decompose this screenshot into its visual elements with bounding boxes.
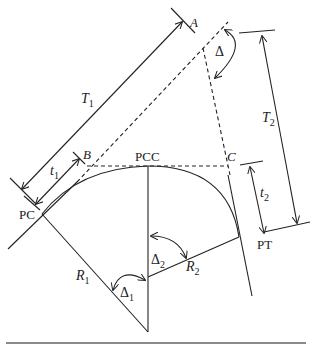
label-t1: t1: [50, 163, 59, 181]
label-pt: PT: [257, 237, 272, 252]
compound-curve-diagram: A B PCC C PC PT T1 t1 T2 t2 R1 R2 Δ Δ1 Δ…: [0, 0, 312, 349]
label-t2: t2: [260, 185, 269, 203]
label-R2: R2: [185, 259, 200, 277]
label-delta2: Δ2: [151, 252, 165, 270]
forward-tangent-line: [228, 175, 252, 296]
small-t2-upper-tick: [240, 161, 263, 165]
label-T2: T2: [262, 110, 275, 128]
label-delta1: Δ1: [120, 285, 134, 303]
label-point-c: C: [227, 149, 236, 164]
label-delta: Δ: [215, 44, 224, 59]
bottom-rule: [6, 342, 306, 344]
label-pc: PC: [19, 207, 35, 222]
curve-2: [148, 166, 239, 237]
label-R1: R1: [75, 268, 90, 286]
small-t2-dimension-arrow: [250, 167, 264, 233]
label-pcc: PCC: [135, 149, 160, 164]
t1-lower-tick: [10, 178, 36, 204]
T2-upper-tick: [239, 30, 275, 33]
forward-tangent-extension: [203, 48, 230, 175]
label-T1: T1: [81, 91, 94, 109]
label-point-a: A: [189, 15, 198, 30]
T2-lower-tick: [264, 222, 310, 232]
label-point-b: B: [83, 147, 91, 162]
radius-r1: [42, 214, 148, 332]
